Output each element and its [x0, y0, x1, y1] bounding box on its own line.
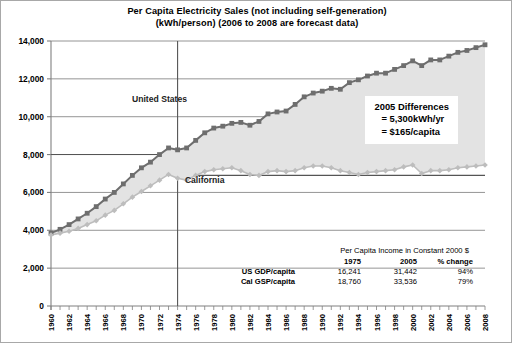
data-point-marker	[302, 94, 307, 99]
data-point-marker	[148, 160, 153, 165]
callout-2005-differences: 2005 Differences = 5,300kWh/yr = $165/ca…	[365, 96, 458, 145]
data-point-marker	[257, 119, 262, 124]
data-point-marker	[474, 45, 479, 50]
x-axis-group: 1960196219641966196819701972197419761978…	[47, 306, 490, 331]
data-point-marker	[238, 120, 243, 125]
data-point-marker	[211, 126, 216, 131]
data-point-marker	[76, 217, 81, 222]
data-point-marker	[266, 111, 271, 116]
data-point-marker	[85, 211, 90, 216]
data-point-marker	[202, 130, 207, 135]
data-point-marker	[410, 58, 415, 63]
income-table-value-2005: 31,442	[365, 267, 421, 277]
callout-line-2: = 5,300kWh/yr	[374, 113, 449, 126]
y-axis-tick-label: 6,000	[23, 187, 44, 197]
data-point-marker	[374, 71, 379, 76]
data-point-marker	[184, 146, 189, 151]
data-point-marker	[320, 89, 325, 94]
data-point-marker	[275, 110, 280, 115]
income-table-row-label: US GDP/capita	[241, 267, 309, 277]
data-point-marker	[392, 67, 397, 72]
data-point-marker	[175, 147, 180, 152]
income-table-row-label: Cal GSP/capita	[241, 277, 309, 287]
data-point-marker	[130, 173, 135, 178]
income-table-caption: Per Capita Income in Constant 2000 $	[241, 246, 473, 256]
income-table: Per Capita Income in Constant 2000 $ 197…	[241, 246, 473, 287]
data-point-marker	[483, 42, 488, 47]
data-point-marker	[166, 146, 171, 151]
data-point-marker	[284, 109, 289, 114]
x-axis-tick-label: 1964	[83, 313, 92, 331]
series-annotation-united-states: United States	[132, 94, 187, 104]
series-annotation-california: California	[185, 175, 225, 185]
income-table-header-2005: 2005	[365, 257, 421, 267]
data-point-marker	[139, 165, 144, 170]
x-axis-tick-label: 1984	[264, 313, 273, 331]
y-axis-group: 02,0004,0006,0008,00010,00012,00014,000	[18, 36, 51, 311]
data-point-marker	[103, 197, 108, 202]
x-axis-tick-label: 1966	[101, 314, 110, 331]
y-axis-tick-label: 12,000	[18, 74, 44, 84]
income-table-value-change: 79%	[421, 277, 473, 287]
y-axis-tick-label: 8,000	[23, 150, 44, 160]
callout-line-3: = $165/capita	[374, 126, 449, 139]
data-point-marker	[347, 80, 352, 85]
y-axis-tick-label: 2,000	[23, 263, 44, 273]
income-table-header-change: % change	[421, 257, 473, 267]
callout-line-1: 2005 Differences	[374, 101, 449, 114]
x-axis-tick-label: 1970	[137, 314, 146, 331]
income-table-value-2005: 33,536	[365, 277, 421, 287]
x-axis-tick-label: 1982	[246, 314, 255, 331]
x-axis-tick-label: 1974	[174, 313, 183, 331]
chart-figure: Per Capita Electricity Sales (not includ…	[0, 0, 512, 343]
chart-plot-area: 02,0004,0006,0008,00010,00012,00014,000 …	[1, 1, 512, 343]
x-axis-tick-label: 1962	[65, 314, 74, 331]
income-table-value-1975: 16,241	[309, 267, 365, 277]
x-axis-tick-label: 2002	[427, 314, 436, 331]
x-axis-tick-label: 1976	[192, 314, 201, 331]
x-axis-tick-label: 2008	[481, 314, 490, 331]
x-axis-tick-label: 1968	[119, 314, 128, 331]
x-axis-tick-label: 2006	[463, 314, 472, 331]
income-table-header-row: 1975 2005 % change	[241, 257, 473, 267]
x-axis-tick-label: 2004	[445, 313, 454, 331]
y-axis-tick-label: 0	[39, 301, 44, 311]
data-point-marker	[419, 63, 424, 68]
data-point-marker	[338, 87, 343, 92]
data-point-marker	[383, 71, 388, 76]
data-point-marker	[293, 102, 298, 107]
data-point-marker	[465, 48, 470, 53]
data-point-marker	[220, 124, 225, 129]
x-axis-tick-label: 1990	[318, 314, 327, 331]
data-point-marker	[94, 204, 99, 209]
x-axis-tick-label: 1960	[47, 314, 56, 331]
income-table-grid: 1975 2005 % change US GDP/capita16,24131…	[241, 257, 473, 287]
data-point-marker	[428, 58, 433, 63]
data-point-marker	[248, 123, 253, 128]
x-axis-tick-label: 1988	[300, 314, 309, 331]
data-point-marker	[329, 86, 334, 91]
data-point-marker	[67, 222, 72, 227]
data-point-marker	[311, 91, 316, 96]
data-point-marker	[446, 54, 451, 59]
data-point-marker	[157, 152, 162, 157]
data-point-marker	[121, 182, 126, 187]
x-axis-tick-label: 1996	[373, 314, 382, 331]
x-axis-tick-label: 1980	[228, 314, 237, 331]
x-axis-tick-label: 1986	[282, 314, 291, 331]
data-point-marker	[229, 121, 234, 126]
y-axis-tick-label: 14,000	[18, 36, 44, 46]
x-axis-tick-label: 1978	[210, 314, 219, 331]
x-axis-tick-label: 1992	[336, 314, 345, 331]
income-table-row: US GDP/capita16,24131,44294%	[241, 267, 473, 277]
data-point-marker	[437, 58, 442, 63]
data-point-marker	[455, 50, 460, 55]
data-point-marker	[112, 190, 117, 195]
x-axis-tick-label: 1994	[354, 313, 363, 331]
y-axis-tick-label: 4,000	[23, 225, 44, 235]
income-table-value-1975: 18,760	[309, 277, 365, 287]
income-table-header-1975: 1975	[309, 257, 365, 267]
x-axis-tick-label: 1998	[391, 314, 400, 331]
x-axis-tick-label: 1972	[156, 314, 165, 331]
data-point-marker	[365, 74, 370, 79]
